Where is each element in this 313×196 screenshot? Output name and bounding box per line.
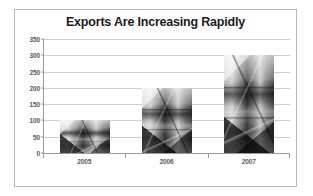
xtick-separator-left <box>43 154 44 158</box>
ytick-label-0: 0 <box>36 150 40 157</box>
x-axis: 2005 2006 2007 <box>43 158 290 172</box>
ytick-label-250: 250 <box>29 68 40 75</box>
chart-title: Exports Are Increasing Rapidly <box>15 15 296 29</box>
ytick-label-200: 200 <box>29 84 40 91</box>
xtick-separator-right <box>289 154 290 158</box>
bar-slot-2005 <box>44 39 126 153</box>
ytick-label-100: 100 <box>29 117 40 124</box>
bar-slot-2007 <box>208 39 290 153</box>
ytick-label-150: 150 <box>29 101 40 108</box>
bar-slot-2006 <box>126 39 208 153</box>
ytick-label-300: 300 <box>29 52 40 59</box>
bar-group <box>44 39 290 153</box>
plot-area: 350 300 250 200 150 100 50 0 <box>43 39 290 154</box>
xtick-label-2006: 2006 <box>125 158 207 172</box>
ytick-label-50: 50 <box>33 133 40 140</box>
bar-2007[interactable] <box>224 55 275 153</box>
chart-frame: Exports Are Increasing Rapidly 350 300 2… <box>14 9 297 187</box>
bar-2006[interactable] <box>142 88 193 153</box>
ytick-label-350: 350 <box>29 36 40 43</box>
xtick-label-2007: 2007 <box>208 158 290 172</box>
xtick-label-2005: 2005 <box>43 158 125 172</box>
bar-2005[interactable] <box>60 120 111 153</box>
gridline-0: 0 <box>44 153 290 154</box>
xtick-separator-1 <box>125 154 126 158</box>
xtick-separator-2 <box>208 154 209 158</box>
